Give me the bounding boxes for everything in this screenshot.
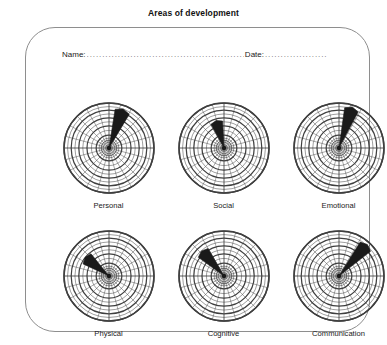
radar-hub	[106, 146, 110, 150]
radar-spoke	[339, 276, 371, 308]
radar-hub	[221, 146, 225, 150]
chart-label: Personal	[94, 201, 124, 210]
chart-label: Social	[213, 201, 234, 210]
radar-spoke	[77, 276, 109, 308]
form-frame: Name: ..................................…	[25, 27, 370, 332]
chart-label: Emotional	[322, 201, 356, 210]
radar-spoke	[224, 148, 256, 180]
radar-chart-communication[interactable]	[289, 226, 387, 326]
radar-spoke	[109, 244, 141, 276]
radar-chart-social[interactable]	[174, 98, 274, 198]
name-input-line[interactable]: ........................................…	[87, 50, 244, 59]
date-label: Date:	[245, 50, 264, 59]
chart-cell: Emotional	[281, 98, 387, 226]
radar-spoke	[192, 276, 224, 308]
radar-spoke	[224, 244, 256, 276]
charts-grid: PersonalSocialEmotionalPhysicalCognitive…	[51, 98, 387, 345]
chart-cell: Physical	[51, 226, 166, 345]
radar-spoke	[339, 148, 371, 180]
chart-cell: Cognitive	[166, 226, 281, 345]
chart-cell: Personal	[51, 98, 166, 226]
radar-hub	[106, 273, 110, 277]
radar-spoke	[224, 276, 256, 308]
radar-hub	[336, 273, 340, 277]
radar-chart-emotional[interactable]	[289, 98, 387, 198]
radar-chart-cognitive[interactable]	[174, 226, 274, 326]
radar-chart-physical[interactable]	[59, 226, 159, 326]
page-title: Areas of development	[0, 8, 387, 18]
name-date-row: Name: ..................................…	[62, 50, 340, 64]
radar-hub	[336, 146, 340, 150]
radar-spoke	[307, 276, 339, 308]
radar-spoke	[307, 244, 339, 276]
radar-spoke	[307, 148, 339, 180]
radar-hub	[221, 273, 225, 277]
radar-spoke	[307, 116, 339, 148]
date-input-line[interactable]: ....................	[265, 50, 339, 59]
chart-label: Communication	[312, 329, 365, 338]
chart-label: Physical	[94, 329, 122, 338]
chart-label: Cognitive	[208, 329, 240, 338]
chart-cell: Communication	[281, 226, 387, 345]
radar-chart-personal[interactable]	[59, 98, 159, 198]
radar-spoke	[109, 148, 141, 180]
radar-spoke	[77, 148, 109, 180]
name-label: Name:	[62, 50, 86, 59]
chart-cell: Social	[166, 98, 281, 226]
radar-spoke	[224, 116, 256, 148]
radar-spoke	[109, 276, 141, 308]
radar-spoke	[192, 148, 224, 180]
radar-spoke	[77, 116, 109, 148]
